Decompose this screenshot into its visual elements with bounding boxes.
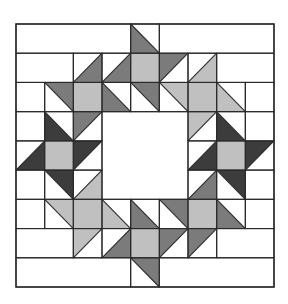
quilt-patches: [16, 24, 274, 287]
white-border-strip: [16, 53, 73, 82]
white-patch: [16, 82, 45, 111]
white-border-strip: [16, 24, 131, 53]
white-border-strip: [217, 53, 274, 82]
center-square: [102, 112, 188, 200]
white-patch: [245, 170, 274, 199]
white-border-strip: [217, 229, 274, 258]
white-border-strip: [16, 229, 73, 258]
white-patch: [16, 199, 45, 228]
quilt-diagram: [0, 0, 288, 304]
white-patch: [16, 170, 45, 199]
white-border-strip: [16, 258, 131, 287]
quilt-patch-light: [73, 199, 102, 228]
quilt-patch-light: [217, 141, 246, 170]
quilt-patch-light: [73, 82, 102, 111]
quilt-patch-light: [131, 229, 160, 258]
white-patch: [245, 112, 274, 141]
white-border-strip: [159, 258, 274, 287]
quilt-patch-light: [188, 199, 217, 228]
quilt-patch-light: [131, 53, 160, 82]
quilt-patch-light: [188, 82, 217, 111]
white-patch: [245, 199, 274, 228]
white-patch: [245, 82, 274, 111]
white-patch: [16, 112, 45, 141]
quilt-patch-light: [45, 141, 74, 170]
white-border-strip: [159, 24, 274, 53]
